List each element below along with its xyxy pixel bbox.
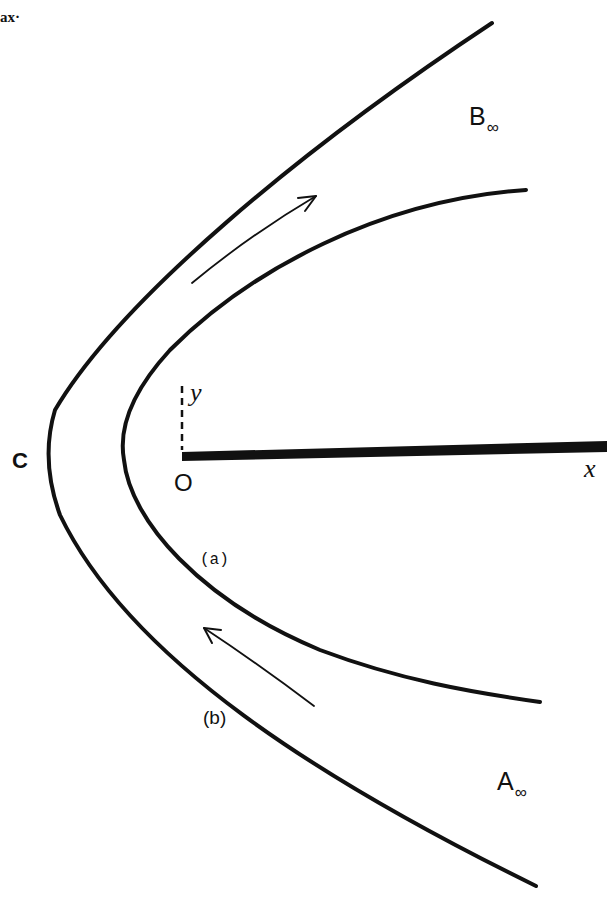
label-streamline-b: (b) <box>203 708 226 727</box>
label-streamline-a: (a) <box>200 552 229 568</box>
label-a-letter: A <box>497 767 514 795</box>
label-y-axis: y <box>190 380 202 406</box>
flow-diagram: ax· B∞ A∞ C O y x (a) (b) <box>0 0 607 906</box>
label-b-subscript: ∞ <box>487 118 499 137</box>
label-a-infinity: A∞ <box>497 769 527 794</box>
label-b-letter: B <box>469 102 486 130</box>
flat-plate <box>182 441 607 461</box>
flow-arrow-upper-icon <box>192 196 316 283</box>
label-x-axis: x <box>584 456 596 482</box>
label-c-point: C <box>12 450 28 472</box>
label-a-subscript: ∞ <box>515 783 527 802</box>
label-b-infinity: B∞ <box>469 104 499 129</box>
label-origin: O <box>174 471 193 495</box>
header-fragment: ax· <box>0 10 20 25</box>
